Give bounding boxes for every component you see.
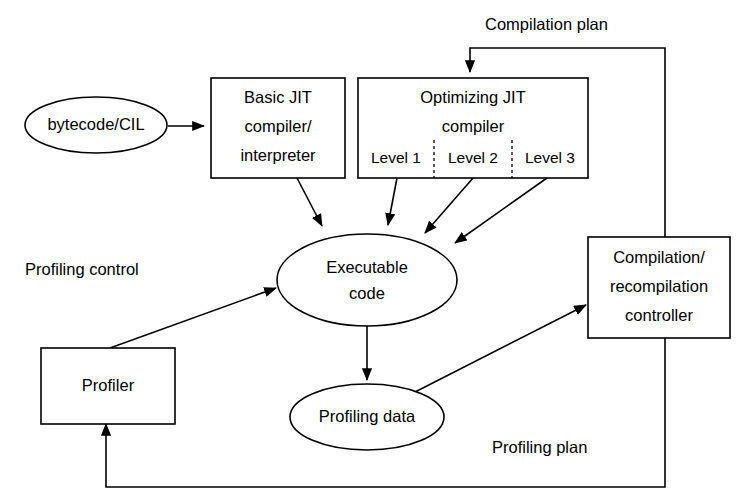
basic-jit-label-line1: Basic JIT bbox=[244, 88, 312, 106]
node-basic-jit-compiler[interactable]: Basic JIT compiler/ interpreter bbox=[211, 78, 345, 178]
optimizing-jit-level-1[interactable]: Level 1 bbox=[371, 149, 421, 166]
optimizing-jit-level-3[interactable]: Level 3 bbox=[525, 149, 575, 166]
label-profiling-control: Profiling control bbox=[25, 260, 139, 278]
profiling-data-label: Profiling data bbox=[319, 407, 416, 425]
basic-jit-label-line2: compiler/ bbox=[245, 117, 312, 135]
executable-code-label-line1: Executable bbox=[326, 258, 408, 276]
node-profiler[interactable]: Profiler bbox=[41, 348, 175, 424]
node-profiling-data[interactable]: Profiling data bbox=[290, 384, 444, 450]
node-compilation-recompilation-controller[interactable]: Compilation/ recompilation controller bbox=[588, 237, 730, 338]
executable-code-ellipse-shape bbox=[277, 234, 457, 326]
bytecode-label: bytecode/CIL bbox=[47, 115, 144, 133]
controller-label-line3: controller bbox=[625, 306, 693, 324]
optimizing-jit-label-line2: compiler bbox=[442, 117, 505, 135]
edge-level1-to-executable bbox=[388, 178, 397, 225]
edge-level2-to-executable bbox=[425, 178, 473, 233]
label-profiling-plan: Profiling plan bbox=[492, 438, 587, 456]
optimizing-jit-label-line1: Optimizing JIT bbox=[420, 88, 525, 106]
profiler-label: Profiler bbox=[82, 376, 135, 394]
edge-profiler-to-executable bbox=[110, 288, 276, 348]
controller-label-line1: Compilation/ bbox=[613, 248, 705, 266]
label-compilation-plan: Compilation plan bbox=[485, 15, 608, 33]
basic-jit-label-line3: interpreter bbox=[240, 146, 316, 164]
node-optimizing-jit-compiler[interactable]: Optimizing JIT compiler Level 1 Level 2 … bbox=[358, 78, 588, 178]
edge-profiling-data-to-controller bbox=[415, 305, 586, 392]
jit-architecture-diagram: bytecode/CIL Basic JIT compiler/ interpr… bbox=[0, 0, 753, 504]
executable-code-label-line2: code bbox=[349, 284, 385, 302]
edge-basic-jit-to-executable bbox=[297, 178, 322, 226]
node-bytecode-cil[interactable]: bytecode/CIL bbox=[25, 97, 167, 153]
node-executable-code[interactable]: Executable code bbox=[277, 234, 457, 326]
edge-level3-to-executable bbox=[455, 178, 547, 243]
diagram-canvas: bytecode/CIL Basic JIT compiler/ interpr… bbox=[0, 0, 753, 504]
controller-label-line2: recompilation bbox=[610, 277, 708, 295]
optimizing-jit-level-2[interactable]: Level 2 bbox=[448, 149, 498, 166]
